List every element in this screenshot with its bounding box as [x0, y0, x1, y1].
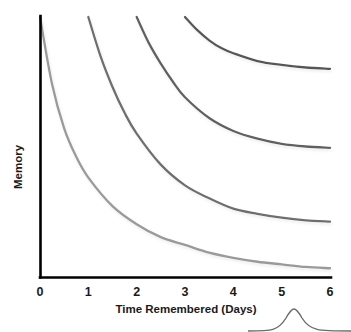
forgetting-curve-chart: 0 1 2 3 4 5 6 Time Remembered (Days) Mem…	[0, 0, 351, 332]
curves-group	[40, 17, 330, 268]
chart-svg: 0 1 2 3 4 5 6 Time Remembered (Days) Mem…	[0, 0, 351, 332]
x-tick-labels: 0 1 2 3 4 5 6	[37, 285, 334, 299]
y-axis-title: Memory	[12, 144, 24, 189]
x-tick-1: 1	[85, 285, 92, 299]
x-tick-3: 3	[182, 285, 189, 299]
x-axis-title: Time Remembered (Days)	[115, 303, 256, 315]
axes-group	[40, 16, 331, 278]
x-tick-0: 0	[37, 285, 44, 299]
curve-day-3	[185, 17, 330, 69]
x-tick-5: 5	[278, 285, 285, 299]
curve-day-0	[40, 17, 330, 268]
x-tick-6: 6	[327, 285, 334, 299]
curve-day-2	[137, 17, 330, 148]
x-tick-2: 2	[133, 285, 140, 299]
grouping-brace	[248, 309, 351, 331]
x-tick-4: 4	[230, 285, 237, 299]
